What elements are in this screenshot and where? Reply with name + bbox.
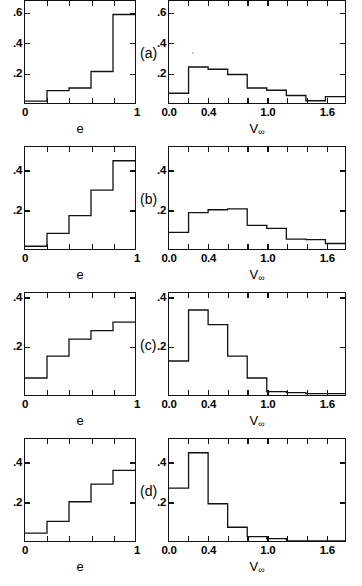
y-tick-left — [25, 170, 30, 171]
x-tick-bottom — [69, 244, 70, 249]
x-tick-bottom — [267, 98, 268, 103]
y-tick-left — [25, 347, 30, 348]
x-tick-top — [267, 147, 268, 152]
x-tick-top — [327, 1, 328, 6]
x-tick-bottom — [69, 390, 70, 395]
y-tick-right — [340, 462, 345, 463]
histogram-panel-d-right: .2.40.00.41.01.6V∞ — [168, 438, 346, 542]
histogram-panel-c-left: .2.401e — [24, 292, 136, 396]
histogram-panel-a-right: .2.4.60.00.41.01.6V∞ — [168, 0, 346, 104]
x-axis-title-e: e — [76, 414, 83, 427]
x-tick-bottom — [307, 98, 308, 103]
x-tick-bottom — [247, 244, 248, 249]
y-tick-label: .2 — [13, 205, 22, 217]
histogram-panel-a-left: .2.4.601e — [24, 0, 136, 104]
x-tick-bottom — [327, 390, 328, 395]
plot-frame: .2.40.00.41.01.6V∞ — [168, 438, 346, 542]
x-tick-top — [208, 147, 209, 152]
x-tick-bottom — [47, 390, 48, 395]
plot-frame: .2.401e — [24, 292, 136, 396]
x-tick-bottom — [208, 536, 209, 541]
histogram-panel-b-left: .2.401e — [24, 146, 136, 250]
y-tick-label: .2 — [13, 342, 22, 354]
x-tick-top — [327, 147, 328, 152]
x-tick-bottom — [188, 536, 189, 541]
x-tick-label: 0.0 — [161, 253, 176, 265]
y-tick-right — [340, 74, 345, 75]
y-tick-left — [169, 462, 174, 463]
x-tick-label: 1.6 — [320, 253, 335, 265]
x-tick-bottom — [228, 536, 229, 541]
x-tick-top — [188, 147, 189, 152]
histogram-steps — [169, 439, 345, 541]
panel-label-a: (a) — [140, 46, 157, 60]
panel-row-d: .2.401e.2.40.00.41.01.6V∞(d) — [0, 438, 362, 584]
panel-label-c: (c) — [140, 338, 156, 352]
x-tick-bottom — [114, 536, 115, 541]
x-tick-top — [69, 439, 70, 444]
x-tick-bottom — [287, 390, 288, 395]
x-tick-top — [188, 1, 189, 6]
histogram-panel-d-left: .2.401e — [24, 438, 136, 542]
x-tick-label: 1.6 — [320, 399, 335, 411]
x-tick-bottom — [287, 244, 288, 249]
y-tick-right — [340, 347, 345, 348]
x-tick-bottom — [267, 244, 268, 249]
y-tick-label: .6 — [157, 7, 166, 19]
histogram-panel-c-right: .2.40.00.41.01.6V∞ — [168, 292, 346, 396]
x-tick-label: 1.0 — [260, 107, 275, 119]
y-tick-label: .4 — [157, 38, 166, 50]
x-tick-bottom — [247, 98, 248, 103]
plot-frame: .2.4.60.00.41.01.6V∞ — [168, 0, 346, 104]
x-tick-top — [69, 293, 70, 298]
x-tick-top — [188, 439, 189, 444]
histogram-steps — [169, 147, 345, 249]
y-tick-right — [340, 502, 345, 503]
x-tick-bottom — [188, 98, 189, 103]
y-tick-left — [169, 502, 174, 503]
y-tick-left — [169, 297, 174, 298]
x-tick-bottom — [287, 98, 288, 103]
y-tick-left — [25, 13, 30, 14]
y-tick-left — [25, 210, 30, 211]
x-tick-top — [47, 147, 48, 152]
x-tick-bottom — [114, 244, 115, 249]
y-tick-label: .2 — [157, 497, 166, 509]
x-tick-bottom — [92, 536, 93, 541]
x-tick-top — [228, 1, 229, 6]
x-axis-title-vinf: V∞ — [249, 122, 264, 137]
x-tick-top — [92, 439, 93, 444]
x-tick-label: 0 — [22, 253, 28, 265]
x-tick-bottom — [92, 244, 93, 249]
x-tick-top — [114, 439, 115, 444]
x-tick-bottom — [307, 390, 308, 395]
panel-label-b: (b) — [140, 192, 157, 206]
x-tick-label: 0.4 — [201, 253, 216, 265]
x-tick-bottom — [307, 536, 308, 541]
y-tick-right — [340, 210, 345, 211]
infinity-subscript: ∞ — [258, 127, 264, 137]
y-tick-left — [25, 297, 30, 298]
infinity-subscript: ∞ — [258, 565, 264, 575]
plot-frame: .2.40.00.41.01.6V∞ — [168, 292, 346, 396]
x-tick-top — [247, 147, 248, 152]
x-tick-bottom — [114, 390, 115, 395]
x-tick-bottom — [208, 98, 209, 103]
infinity-subscript: ∞ — [258, 273, 264, 283]
y-tick-left — [169, 74, 174, 75]
x-tick-top — [92, 1, 93, 6]
x-tick-label: 0 — [22, 107, 28, 119]
x-tick-label: 1.6 — [320, 107, 335, 119]
y-tick-label: .2 — [157, 69, 166, 81]
y-tick-label: .4 — [13, 165, 22, 177]
x-tick-bottom — [228, 98, 229, 103]
y-tick-right — [130, 297, 135, 298]
x-tick-top — [247, 1, 248, 6]
y-tick-label: .2 — [157, 342, 166, 354]
x-tick-bottom — [327, 536, 328, 541]
panel-row-c: .2.401e.2.40.00.41.01.6V∞(c) — [0, 292, 362, 438]
y-tick-right — [130, 462, 135, 463]
x-tick-top — [47, 439, 48, 444]
x-tick-top — [247, 439, 248, 444]
y-tick-label: .4 — [13, 292, 22, 304]
